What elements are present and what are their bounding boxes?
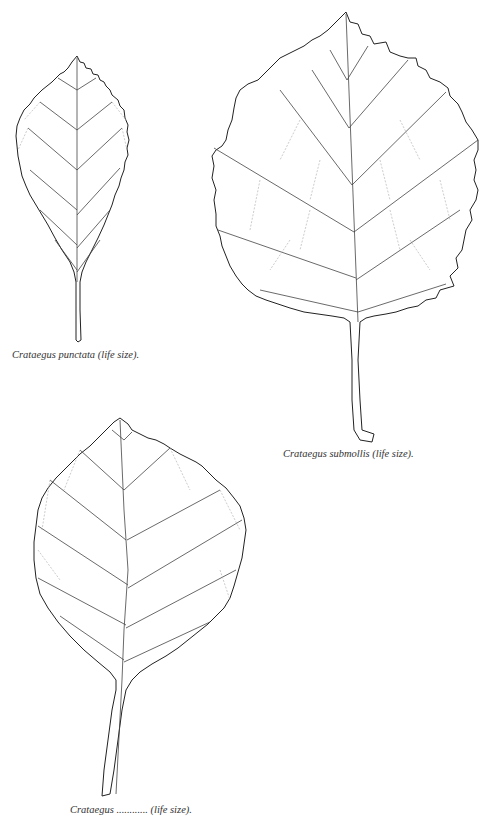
figure-caption-submollis: Crataegus submollis (life size). <box>283 448 414 459</box>
leaf-illustration-bottom <box>20 410 260 800</box>
leaf-figure-punctata <box>0 50 160 345</box>
leaf-illustration-punctata <box>0 50 160 345</box>
leaf-illustration-submollis <box>200 0 491 450</box>
figure-caption-punctata: Crataegus punctata (life size). <box>12 349 139 360</box>
leaf-figure-bottom <box>20 410 260 800</box>
figure-caption-bottom: Crataegus ............ (life size). <box>70 804 192 815</box>
leaf-figure-submollis <box>200 0 491 450</box>
